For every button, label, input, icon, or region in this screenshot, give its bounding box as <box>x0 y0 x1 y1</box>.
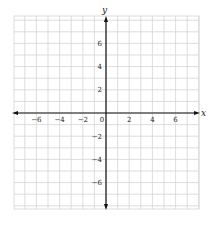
y-axis-label: y <box>101 5 108 15</box>
x-tick-label: −6 <box>31 116 42 124</box>
x-tick-labels: −6−4−20246 <box>31 116 178 124</box>
y-tick-label: 6 <box>98 40 103 48</box>
x-tick-label: 0 <box>100 116 104 124</box>
x-tick-label: −2 <box>78 116 88 124</box>
coordinate-plane: x y −6−4−20246 642−2−4−6 <box>0 0 214 227</box>
y-axis-up-arrow-icon <box>104 16 108 22</box>
axes: x y <box>12 5 206 210</box>
x-axis-left-arrow-icon <box>12 111 18 115</box>
y-tick-label: −4 <box>92 156 103 164</box>
y-tick-label: −6 <box>92 179 103 187</box>
y-tick-label: −2 <box>92 133 102 141</box>
x-tick-label: 4 <box>150 116 155 124</box>
x-tick-label: 2 <box>127 116 131 124</box>
y-tick-label: 2 <box>98 86 102 94</box>
x-tick-label: 6 <box>173 116 178 124</box>
x-tick-label: −4 <box>54 116 65 124</box>
y-tick-label: 4 <box>98 63 103 71</box>
x-axis-label: x <box>201 108 206 118</box>
